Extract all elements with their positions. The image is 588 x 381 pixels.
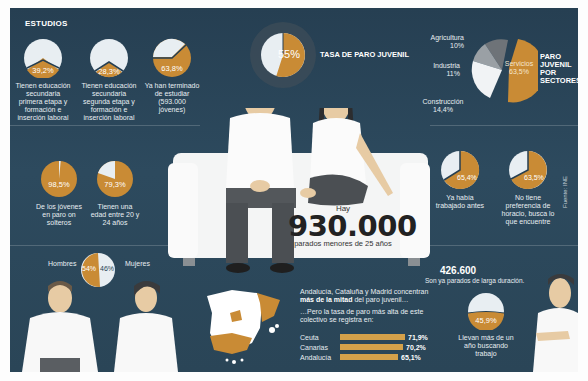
pie-value: 39,2% xyxy=(23,66,63,75)
women-label: Mujeres xyxy=(125,260,150,267)
caption-line: preferencia de xyxy=(496,202,560,210)
sectors-pie: Servicios 63,5% xyxy=(468,36,538,106)
caption-line: formación e xyxy=(12,106,74,114)
sector-name: Construcción xyxy=(418,98,468,106)
sector-name: Industria xyxy=(420,62,460,70)
bar-label: Ceuta xyxy=(300,334,340,341)
age-caption: Tienen una edad entre 20 y 24 años xyxy=(84,203,146,227)
sector-name: Servicios xyxy=(504,60,534,68)
title-line: SECTORES xyxy=(540,77,578,85)
divider xyxy=(430,125,578,126)
sectors-title: PARO JUVENIL POR SECTORES xyxy=(540,53,578,85)
caption-line: secundaria xyxy=(78,90,140,98)
bar-label: Canarias xyxy=(300,344,340,351)
sector-value: 10% xyxy=(422,42,464,50)
worked-before-pie: 65,4% xyxy=(440,150,480,190)
youth-rate-label: TASA DE PARO JUVENIL xyxy=(320,50,409,59)
regions-line-3: …Pero la tasa de paro más alta de este xyxy=(300,308,435,316)
caption-line: que encuentre xyxy=(496,218,560,226)
caption-line: año buscando xyxy=(454,342,518,350)
long-term-pie: 45,9% xyxy=(467,292,505,330)
sector-name: Agricultura xyxy=(422,34,464,42)
schedule-caption: No tiene preferencia de horacio, busca l… xyxy=(496,194,560,226)
worked-before-caption: Ya había trabajado antes xyxy=(428,194,492,210)
caption-line: de estudiar xyxy=(142,90,202,98)
studies-pie-1: 39,2% xyxy=(23,38,63,78)
bar-label: Andalucía xyxy=(300,354,340,361)
studies-title: ESTUDIOS xyxy=(25,19,68,28)
long-term-subtitle: Son ya parados de larga duración. xyxy=(425,277,524,284)
studies-pie-2: 28,3% xyxy=(89,38,129,78)
pie-value: 28,3% xyxy=(89,67,129,76)
caption-line: segunda etapa y xyxy=(78,98,140,106)
regions-line-1: Andalucía, Cataluña y Madrid concentran xyxy=(300,288,435,296)
bar xyxy=(340,334,405,340)
caption-line: solteros xyxy=(28,219,90,227)
pie-value: 63,5% xyxy=(524,174,544,181)
bar-value: 71,9% xyxy=(408,334,428,341)
headline-post: parados menores de 25 años xyxy=(288,239,398,248)
studies-pie-3: 63,8% xyxy=(152,38,192,78)
caption-line: inserción laboral xyxy=(78,114,140,122)
standing-man-illustration xyxy=(528,273,578,372)
caption-line: No tiene xyxy=(496,194,560,202)
sector-servicios-label: Servicios 63,5% xyxy=(504,60,534,76)
pie-value: 98,5% xyxy=(40,180,78,189)
sector-agricultura-label: Agricultura 10% xyxy=(422,34,464,50)
caption-line: 24 años xyxy=(84,219,146,227)
bar-value: 70,2% xyxy=(406,344,426,351)
sector-industria-label: Industria 11% xyxy=(420,62,460,78)
gender-illustration xyxy=(10,276,190,372)
studies-caption-1: Tienen educación secundaria primera etap… xyxy=(12,82,74,122)
men-value: 54% xyxy=(82,265,96,272)
caption-line: secundaria xyxy=(12,90,74,98)
caption-line: De los jóvenes xyxy=(28,203,90,211)
headline-number: 930.000 xyxy=(288,213,398,239)
studies-caption-2: Tienen educación secundaria segunda etap… xyxy=(78,82,140,122)
bar xyxy=(340,344,403,350)
bar-value: 65,1% xyxy=(401,354,421,361)
sector-value: 63,5% xyxy=(504,68,534,76)
caption-line: primera etapa y xyxy=(12,98,74,106)
sector-value: 11% xyxy=(420,70,460,78)
caption-line: en paro on xyxy=(28,211,90,219)
women-value: 46% xyxy=(100,265,114,272)
headline: Hay 930.000 parados menores de 25 años xyxy=(288,204,398,248)
pie-value: 45,9% xyxy=(467,316,505,325)
pie-value: 79,3% xyxy=(96,180,134,189)
long-term-caption: Llevan más de un año buscando trabajo xyxy=(454,334,518,358)
divider xyxy=(430,245,578,246)
single-caption: De los jóvenes en paro on solteros xyxy=(28,203,90,227)
caption-line: Ya han terminado xyxy=(142,82,202,90)
caption-line: Tienen educación xyxy=(12,82,74,90)
regions-line-2: más de la mitad del paro juvenil… xyxy=(300,296,435,304)
regions-tail: del paro juvenil… xyxy=(353,296,409,303)
pie-value: 65,4% xyxy=(457,174,477,181)
men-label: Hombres xyxy=(48,260,76,267)
regions-line-4: colectivo se registra en: xyxy=(300,316,435,324)
regions-bold: más de la mitad xyxy=(300,296,353,303)
caption-line: Tienen educación xyxy=(78,82,140,90)
caption-line: Llevan más de un xyxy=(454,334,518,342)
caption-line: trabajo xyxy=(454,350,518,358)
source-label: Fuente: INE xyxy=(562,176,568,208)
infographic-panel: ESTUDIOS 39,2% Tienen educación secundar… xyxy=(10,8,578,372)
caption-line: Ya había xyxy=(428,194,492,202)
bar-row-canarias: Canarias 70,2% xyxy=(300,342,440,352)
caption-line: trabajado antes xyxy=(428,202,492,210)
youth-rate-pie: 55% xyxy=(260,32,306,78)
caption-line: (593.000 xyxy=(142,98,202,106)
regions-text: Andalucía, Cataluña y Madrid concentran … xyxy=(300,288,435,324)
youth-rate-value: 55% xyxy=(278,48,300,60)
caption-line: formación e xyxy=(78,106,140,114)
bar xyxy=(340,354,398,360)
sofa-illustration xyxy=(168,108,433,278)
spain-map xyxy=(202,288,297,368)
caption-line: edad entre 20 y xyxy=(84,211,146,219)
caption-line: inserción laboral xyxy=(12,114,74,122)
bar-row-andalucia: Andalucía 65,1% xyxy=(300,352,440,362)
single-pie: 98,5% xyxy=(40,160,78,198)
pie-value: 63,8% xyxy=(152,64,192,73)
schedule-pie: 63,5% xyxy=(508,150,548,190)
caption-line: Tienen una xyxy=(84,203,146,211)
